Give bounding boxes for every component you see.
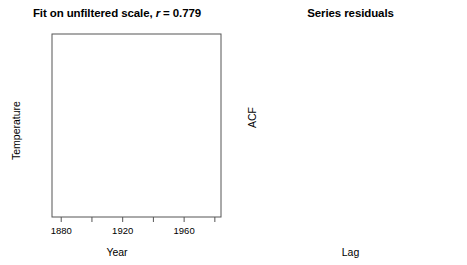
x-tick-label: 1880 xyxy=(51,225,72,236)
x-axis-title-year: Year xyxy=(0,246,234,258)
panel-acf-residuals: Series residuals Lag ACF xyxy=(234,0,467,265)
x-tick-label: 1920 xyxy=(112,225,133,236)
panel-scatter-fit: Fit on unfiltered scale, r = 0.779 18801… xyxy=(0,0,234,265)
figure-panel-container: Fit on unfiltered scale, r = 0.779 18801… xyxy=(0,0,467,265)
plot-box-border xyxy=(52,34,221,217)
acf-plot-canvas xyxy=(234,0,467,265)
scatter-plot-canvas: 188019201960 xyxy=(0,0,234,265)
x-axis-title-lag: Lag xyxy=(234,246,467,258)
x-tick-label: 1960 xyxy=(174,225,195,236)
x-axis-ticks: 188019201960 xyxy=(51,217,215,236)
y-axis-title-acf: ACF xyxy=(246,107,258,128)
y-axis-title-temperature: Temperature xyxy=(10,101,22,160)
